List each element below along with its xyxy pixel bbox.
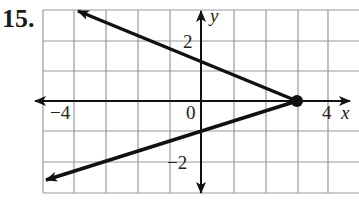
x-axis-label: x — [341, 103, 349, 122]
tick-label-x-neg4: −4 — [50, 103, 70, 122]
tick-label-origin: 0 — [186, 103, 196, 122]
y-axis-label: y — [210, 6, 218, 25]
tick-label-y-2: 2 — [183, 32, 193, 51]
tick-label-y-neg2: −2 — [167, 153, 187, 172]
upper-ray — [78, 11, 297, 101]
vertex-point — [291, 95, 303, 107]
tick-label-x-4: 4 — [322, 103, 332, 122]
